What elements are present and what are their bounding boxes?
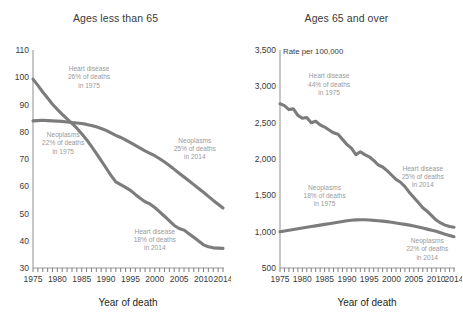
annotation-line: in 2014 [412,181,434,188]
x-tick-label-1995: 1995 [360,274,379,284]
annotation-line: Neoplasms [47,131,81,139]
y-tick-label-2000: 2,000 [255,154,277,164]
annotation-line: in 2014 [416,254,438,261]
y-tick-label-60: 60 [20,181,30,191]
y-tick-label-1000: 1,000 [255,227,277,237]
annotation-heart-2014: Heart disease18% of deathsin 2014 [134,228,177,251]
annotation-line: 26% of deaths [68,73,111,80]
y-tick-label-3000: 3,000 [255,81,277,91]
annotation-line: in 1975 [78,82,100,89]
figure-root: Ages less than 65 3040506070809010011019… [0,0,463,316]
annotation-line: in 1975 [52,148,74,155]
annotation-line: 25% of deaths [402,173,445,180]
y-tick-label-2500: 2,500 [255,118,277,128]
x-tick-label-1975: 1975 [24,274,43,284]
annotation-line: Heart disease [69,65,110,72]
y-tick-label-30: 30 [20,263,30,273]
x-tick-label-2014: 2014 [214,274,231,284]
x-tick-label-2005: 2005 [404,274,423,284]
annotation-heart-1975: Heart disease44% of deathsin 1975 [308,72,351,95]
annotation-line: 44% of deaths [308,81,351,88]
annotation-neoplasms-1975: Neoplasms22% of deathsin 1975 [42,131,85,154]
line-chart-ages-less-than-65: 3040506070809010011019751980198519901995… [0,0,231,316]
y-tick-label-1500: 1,500 [255,190,277,200]
chart-panel-ages-less-than-65: Ages less than 65 3040506070809010011019… [0,0,231,316]
annotation-neoplasms-2014: Neoplasms22% of deathsin 2014 [406,237,449,260]
y-tick-label-40: 40 [20,236,30,246]
x-tick-label-2000: 2000 [145,274,164,284]
x-tick-label-2014: 2014 [445,274,462,284]
annotation-line: Neoplasms [308,184,342,192]
annotation-line: Heart disease [134,228,175,235]
annotation-line: 22% of deaths [406,245,449,252]
x-tick-label-1985: 1985 [72,274,91,284]
y-tick-label-100: 100 [15,72,29,82]
x-tick-label-1990: 1990 [97,274,116,284]
annotation-line: Heart disease [402,165,443,172]
annotation-line: Heart disease [309,72,350,79]
annotation-line: 18% of deaths [134,236,177,243]
annotation-neoplasms-1975: Neoplasms18% of deathsin 1975 [304,184,347,207]
annotation-line: Neoplasms [178,137,212,145]
x-tick-label-1995: 1995 [121,274,140,284]
annotation-line: in 1975 [318,89,340,96]
series-line-neoplasms [280,220,454,237]
y-tick-label-50: 50 [20,209,30,219]
chart-panel-ages-65-and-over: Ages 65 and over 5001,0001,5002,0002,500… [231,0,462,316]
x-tick-label-1975: 1975 [271,274,290,284]
rate-unit-label: Rate per 100,000 [283,47,344,56]
annotation-line: 18% of deaths [304,192,347,199]
x-axis-title: Year of death [98,297,157,308]
x-tick-label-1990: 1990 [337,274,356,284]
annotation-line: Neoplasms [411,237,445,245]
x-tick-label-2000: 2000 [382,274,401,284]
x-axis-title: Year of death [337,297,396,308]
annotation-line: in 2014 [184,153,206,160]
y-tick-label-70: 70 [20,154,30,164]
x-tick-label-2010: 2010 [427,274,446,284]
x-tick-label-1985: 1985 [315,274,334,284]
annotation-line: 22% of deaths [42,139,85,146]
annotation-line: in 1975 [314,200,336,207]
annotation-line: in 2014 [144,244,166,251]
y-tick-label-3500: 3,500 [255,45,277,55]
x-tick-label-2010: 2010 [194,274,213,284]
annotation-neoplasms-2014: Neoplasms25% of deathsin 2014 [174,137,217,160]
x-tick-label-1980: 1980 [293,274,312,284]
annotation-heart-2014: Heart disease25% of deathsin 2014 [402,165,445,188]
y-tick-label-80: 80 [20,127,30,137]
line-chart-ages-65-and-over: 5001,0001,5002,0002,5003,0003,500Rate pe… [231,0,462,316]
annotation-line: 25% of deaths [174,145,217,152]
series-line-heart-disease [33,79,223,248]
x-tick-label-2005: 2005 [170,274,189,284]
y-tick-label-90: 90 [20,100,30,110]
x-tick-label-1980: 1980 [48,274,67,284]
y-tick-label-110: 110 [15,45,29,55]
annotation-heart-1975: Heart disease26% of deathsin 1975 [68,65,111,88]
y-tick-label-500: 500 [262,263,276,273]
